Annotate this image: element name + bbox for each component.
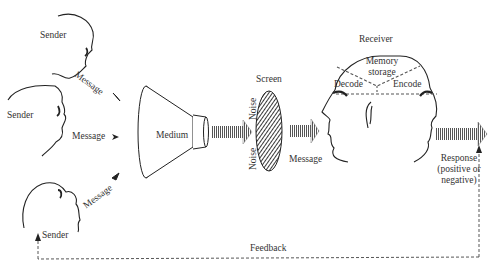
screen-to-receiver-arrow-icon — [289, 119, 319, 143]
encode-label: Encode — [393, 80, 422, 90]
sender-label-top: Sender — [40, 31, 66, 41]
sender-label-bottom: Sender — [42, 231, 68, 241]
screen-noise-filter — [256, 91, 282, 171]
message-arrow-top-icon — [113, 93, 120, 101]
response-label-line2: (positive or — [430, 165, 488, 175]
feedback-label: Feedback — [250, 244, 286, 254]
feedback-arrow-up-right-icon — [476, 145, 482, 153]
screen-label: Screen — [256, 75, 282, 85]
noise-label-bottom: Noise — [249, 148, 259, 170]
response-arrow-icon — [436, 122, 487, 146]
medium-label: Medium — [156, 131, 188, 141]
sender-head-top — [52, 14, 93, 78]
message-label-screen: Message — [289, 155, 322, 165]
response-label-line1: Response — [430, 154, 488, 164]
memory-storage-label-line2: storage — [362, 68, 402, 78]
memory-storage-label-line1: Memory — [362, 57, 402, 67]
message-arrow-bottom-icon — [112, 173, 119, 180]
noise-label-top: Noise — [249, 98, 259, 120]
response-label-line3: negative) — [430, 176, 488, 186]
sender-head-bottom — [23, 183, 80, 232]
receiver-label: Receiver — [359, 35, 393, 45]
medium-to-screen-arrow-icon — [211, 120, 252, 144]
decode-label: Decode — [334, 80, 363, 90]
message-label-middle: Message — [72, 132, 105, 142]
feedback-arrow-up-left-icon — [35, 233, 41, 241]
sender-label-middle: Sender — [7, 111, 33, 121]
message-arrow-middle-icon — [112, 134, 119, 140]
sender-head-middle — [8, 86, 66, 156]
